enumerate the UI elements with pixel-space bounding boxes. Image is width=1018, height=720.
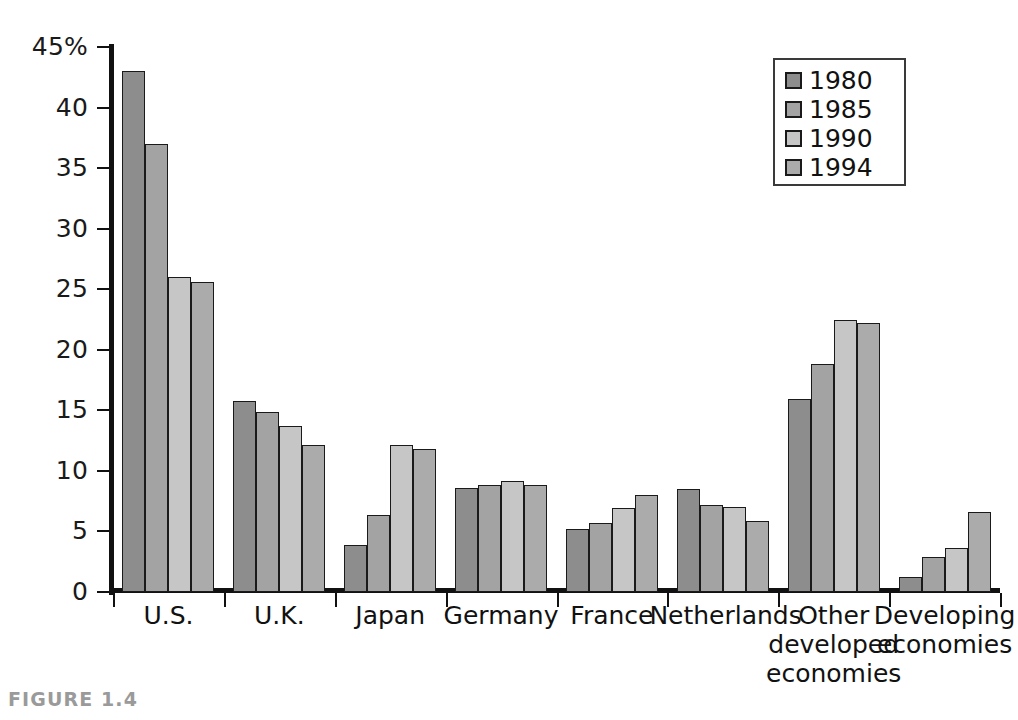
bar [746,521,769,592]
y-axis-tick-label: 10 [0,458,88,483]
legend-swatch-icon [785,101,802,118]
y-axis-tick-label: 15 [0,397,88,422]
y-axis-tick [97,107,110,109]
legend-swatch-icon [785,130,802,147]
legend-item: 1980 [785,66,904,95]
bar [677,489,700,592]
bar [723,507,746,592]
bar [635,495,658,592]
bar [413,449,436,592]
y-axis-tick [97,591,110,593]
bar [788,399,811,592]
y-axis-tick-label: 0 [0,579,88,604]
bar [455,488,478,592]
y-axis-tick-label: 20 [0,337,88,362]
y-axis-tick-label: 40 [0,95,88,120]
bar-group [233,47,325,592]
legend-item: 1994 [785,153,904,182]
bar-group [122,47,214,592]
bar [922,557,945,592]
figure-caption: FIGURE 1.4 [8,688,138,710]
y-axis-tick [97,288,110,290]
bar [700,505,723,592]
y-axis-tick-label: 5 [0,518,88,543]
bar [390,445,413,592]
y-axis-tick-label: 30 [0,216,88,241]
bar [857,323,880,592]
y-axis-tick-label: 35 [0,155,88,180]
bar [899,577,922,592]
legend-item: 1990 [785,124,904,153]
bar [811,364,834,592]
bar [122,71,145,592]
bar [168,277,191,592]
bar [302,445,325,592]
bar [945,548,968,592]
legend-label: 1990 [809,126,873,151]
bar [191,282,214,592]
legend-swatch-icon [785,159,802,176]
bar [145,144,168,592]
y-axis-tick [97,167,110,169]
bar [256,412,279,592]
bar [478,485,501,592]
bar-group [344,47,436,592]
y-axis-tick-label: 25 [0,276,88,301]
bar [524,485,547,592]
bar-group [566,47,658,592]
y-axis-tick [97,530,110,532]
y-axis-tick [97,409,110,411]
bar [501,481,524,592]
bar-group [899,47,991,592]
bar [233,401,256,592]
bar [367,515,390,593]
bar [968,512,991,592]
y-axis-tick-label: 45% [0,34,88,59]
bar [344,545,367,592]
bar [834,320,857,593]
y-axis-tick [97,470,110,472]
legend-swatch-icon [785,72,802,89]
bar-group [677,47,769,592]
y-axis-tick [97,349,110,351]
legend-label: 1985 [809,97,873,122]
legend-item: 1985 [785,95,904,124]
chart-legend: 1980198519901994 [773,58,906,186]
bar [566,529,589,592]
bar-group [455,47,547,592]
bar [612,508,635,592]
legend-label: 1994 [809,155,873,180]
bar [279,426,302,592]
legend-label: 1980 [809,68,873,93]
y-axis-tick [97,228,110,230]
x-axis-label: Developing economies [871,601,1018,659]
bar [589,523,612,592]
y-axis-tick [97,46,110,48]
